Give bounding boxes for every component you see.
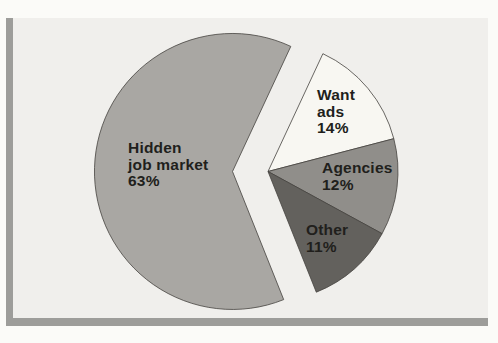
- slice-label-line: Other: [306, 222, 348, 239]
- slice-label-line: Want: [317, 87, 355, 104]
- exploded-pie-chart: [0, 0, 498, 343]
- slice-label-line: Hidden: [128, 140, 208, 157]
- slice-label-other: Other 11%: [306, 222, 348, 255]
- slice-label-agencies: Agencies 12%: [322, 160, 393, 193]
- slice-label-want-ads: Want ads 14%: [317, 87, 355, 137]
- slice-label-line: 14%: [317, 120, 355, 137]
- slice-label-line: 63%: [128, 173, 208, 190]
- figure-page: Hidden job market 63% Want ads 14% Agenc…: [0, 0, 498, 343]
- slice-label-line: 11%: [306, 239, 348, 256]
- slice-label-line: job market: [128, 157, 208, 174]
- slice-label-line: 12%: [322, 177, 393, 194]
- slice-label-line: ads: [317, 104, 355, 121]
- slice-label-hidden-job-market: Hidden job market 63%: [128, 140, 208, 190]
- slice-label-line: Agencies: [322, 160, 393, 177]
